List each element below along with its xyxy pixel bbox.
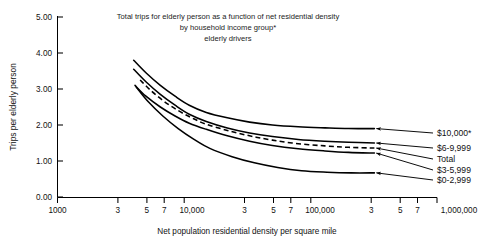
x-tick-label: 5	[398, 206, 403, 215]
x-tick-label: 1000	[48, 206, 67, 215]
data-series-group	[134, 60, 375, 173]
y-tick-label: 2.00	[36, 121, 52, 130]
y-tick-label: 4.00	[36, 49, 52, 58]
chart-title-line-2: by household income group*	[180, 23, 276, 32]
x-tick-label: 7	[162, 206, 167, 215]
x-tick-label: 5	[271, 206, 276, 215]
y-axis-ticks	[58, 17, 64, 197]
series-label-6-9999: $6-9,999	[437, 143, 471, 153]
x-tick-label: 3	[116, 206, 121, 215]
x-tick-label: 7	[415, 206, 420, 215]
y-tick-label: 3.00	[36, 85, 52, 94]
series-label-0-2999: $0-2,999	[437, 175, 471, 185]
chart-figure: Total trips for elderly person as a func…	[0, 0, 497, 245]
x-tick-label: 7	[289, 206, 294, 215]
series-line-10000	[134, 60, 375, 128]
y-tick-label: 1.00	[36, 157, 52, 166]
x-axis-ticks	[58, 198, 438, 204]
x-axis-tick-labels: 1000 3 5 7 10,000 3 5 7 100,000 3 5 7 1,…	[48, 206, 477, 215]
series-line-6-9999	[134, 69, 375, 143]
x-tick-label: 1,000,000	[441, 206, 478, 215]
x-tick-label: 3	[242, 206, 247, 215]
y-tick-label: 5.00	[36, 13, 52, 22]
series-labels-group: $10,000* $6-9,999 Total $3-5,999 $0-2,99…	[437, 128, 472, 185]
series-label-total: Total	[437, 154, 455, 164]
series-leader-lines	[376, 129, 433, 180]
x-tick-label: 3	[369, 206, 374, 215]
chart-title-line-3: elderly drivers	[204, 34, 251, 43]
series-label-3-5999: $3-5,999	[437, 165, 471, 175]
x-tick-label: 5	[145, 206, 150, 215]
x-tick-label: 100,000	[305, 206, 335, 215]
y-axis-title: Trips per elderly person	[8, 63, 18, 151]
x-tick-label: 10,000	[179, 206, 204, 215]
series-line-0-2999	[136, 87, 374, 173]
x-axis-title: Net population residential density per s…	[157, 227, 337, 236]
series-line-total	[140, 80, 374, 148]
series-label-10000: $10,000*	[437, 128, 472, 138]
chart-title-line-1: Total trips for elderly person as a func…	[117, 12, 340, 21]
series-line-3-5999	[135, 85, 374, 153]
chart-plot-area: Total trips for elderly person as a func…	[0, 0, 497, 245]
y-tick-label: 0.00	[36, 193, 52, 202]
y-axis-tick-labels: 5.00 4.00 3.00 2.00 1.00 0.00	[36, 13, 52, 202]
